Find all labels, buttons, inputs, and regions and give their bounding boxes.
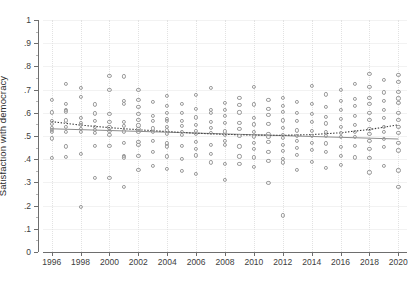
x-tick-mark [369, 252, 370, 256]
y-tick-mark [34, 182, 38, 183]
x-tick-mark [109, 252, 110, 256]
y-tick-label: 1 [26, 16, 31, 25]
x-tick-label: 2020 [389, 258, 408, 267]
y-tick-label: .1 [24, 225, 31, 234]
y-tick-mark [34, 136, 38, 137]
x-tick-label: 2008 [216, 258, 235, 267]
y-tick-mark-minor [36, 55, 38, 56]
y-tick-label: .6 [24, 109, 31, 118]
y-tick-mark-minor [36, 194, 38, 195]
y-tick-mark-minor [36, 32, 38, 33]
y-tick-mark [34, 20, 38, 21]
y-tick-mark-minor [36, 124, 38, 125]
y-tick-label: .3 [24, 178, 31, 187]
y-tick-mark [34, 206, 38, 207]
x-tick-label: 2006 [187, 258, 206, 267]
x-tick-label: 2012 [273, 258, 292, 267]
x-tick-label: 1998 [71, 258, 90, 267]
x-tick-mark [312, 252, 313, 256]
y-tick-label: .7 [24, 85, 31, 94]
x-tick-mark [52, 252, 53, 256]
x-tick-mark [283, 252, 284, 256]
y-tick-label: .8 [24, 62, 31, 71]
y-tick-label: .9 [24, 39, 31, 48]
x-tick-mark [341, 252, 342, 256]
y-tick-mark-minor [36, 148, 38, 149]
x-tick-label: 2000 [100, 258, 119, 267]
x-tick-mark [398, 252, 399, 256]
x-tick-mark [196, 252, 197, 256]
y-tick-mark-minor [36, 240, 38, 241]
y-tick-label: .2 [24, 201, 31, 210]
y-tick-mark [34, 159, 38, 160]
y-tick-mark [34, 43, 38, 44]
x-tick-label: 1996 [42, 258, 61, 267]
y-tick-label: 0 [26, 248, 31, 257]
y-tick-mark-minor [36, 171, 38, 172]
y-tick-mark [34, 229, 38, 230]
y-tick-mark [34, 113, 38, 114]
x-tick-mark [167, 252, 168, 256]
plot-area: 0.1.2.3.4.5.6.7.8.91 1996199820002002200… [43, 20, 407, 252]
y-tick-mark [34, 66, 38, 67]
x-tick-mark [138, 252, 139, 256]
y-axis-title: Satisfaction with democracy [0, 76, 8, 196]
x-tick-label: 2018 [360, 258, 379, 267]
y-axis-line [38, 20, 39, 252]
y-tick-mark-minor [36, 217, 38, 218]
x-tick-mark [254, 252, 255, 256]
x-tick-label: 2016 [331, 258, 350, 267]
y-tick-label: .5 [24, 132, 31, 141]
y-tick-mark [34, 252, 38, 253]
figure-canvas: Satisfaction with democracy 0.1.2.3.4.5.… [0, 0, 410, 283]
x-tick-label: 2004 [158, 258, 177, 267]
x-tick-mark [225, 252, 226, 256]
y-tick-mark-minor [36, 78, 38, 79]
y-tick-mark-minor [36, 101, 38, 102]
x-tick-mark [81, 252, 82, 256]
x-tick-label: 2002 [129, 258, 148, 267]
x-tick-label: 2014 [302, 258, 321, 267]
x-tick-label: 2010 [244, 258, 263, 267]
y-tick-label: .4 [24, 155, 31, 164]
y-tick-mark [34, 90, 38, 91]
